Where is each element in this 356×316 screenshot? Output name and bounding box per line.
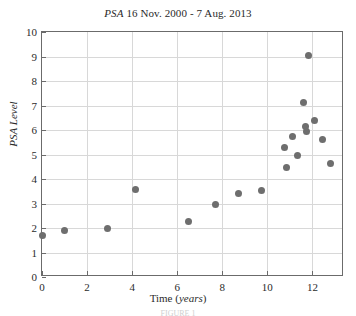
- y-axis-tick: [42, 81, 46, 82]
- data-point: [300, 99, 307, 106]
- gridline-vertical: [312, 32, 313, 275]
- y-axis-tick: [42, 57, 46, 58]
- x-axis-tick: [132, 271, 133, 275]
- psa-scatter-figure: PSA 16 Nov. 2000 - 7 Aug. 2013 012345678…: [0, 0, 356, 316]
- x-axis-tick: [42, 271, 43, 275]
- data-point: [212, 201, 219, 208]
- y-axis-tick: [42, 253, 46, 254]
- x-axis-label-close: ): [203, 292, 207, 304]
- y-axis-label: PSA Level: [7, 79, 19, 169]
- x-axis-tick: [222, 271, 223, 275]
- y-axis-tick: [42, 179, 46, 180]
- y-axis-tick: [42, 277, 46, 278]
- y-axis-tick: [42, 204, 46, 205]
- y-axis-tick-label: 2: [11, 223, 37, 234]
- y-axis-tick: [42, 130, 46, 131]
- data-point: [289, 133, 296, 140]
- data-point: [61, 227, 68, 234]
- data-point: [132, 186, 139, 193]
- data-point: [235, 190, 242, 197]
- figure-caption-cropped: FIGURE 1: [0, 309, 356, 316]
- chart-title: PSA 16 Nov. 2000 - 7 Aug. 2013: [0, 7, 356, 19]
- plot-area: 012345678910024681012: [41, 31, 343, 276]
- data-point: [327, 160, 334, 167]
- gridline-vertical: [222, 32, 223, 275]
- gridline-vertical: [177, 32, 178, 275]
- y-axis-tick-label: 4: [11, 174, 37, 185]
- y-axis-tick-label: 10: [11, 27, 37, 38]
- data-point: [303, 128, 310, 135]
- y-axis-tick: [42, 155, 46, 156]
- data-point: [305, 52, 312, 59]
- chart-title-rest: 16 Nov. 2000 - 7 Aug. 2013: [124, 7, 252, 19]
- data-point: [283, 164, 290, 171]
- x-axis-label-italic: years: [179, 292, 203, 304]
- gridline-vertical: [267, 32, 268, 275]
- gridline-vertical: [132, 32, 133, 275]
- x-axis-label: Time (years): [0, 292, 356, 304]
- x-axis-label-plain: Time (: [150, 292, 179, 304]
- data-point: [185, 218, 192, 225]
- data-point: [294, 152, 301, 159]
- data-point: [311, 117, 318, 124]
- gridline-vertical: [87, 32, 88, 275]
- data-point: [258, 187, 265, 194]
- x-axis-tick: [177, 271, 178, 275]
- data-point: [281, 144, 288, 151]
- y-axis-tick: [42, 228, 46, 229]
- data-point: [39, 232, 46, 239]
- data-point: [319, 136, 326, 143]
- y-axis-tick-label: 1: [11, 248, 37, 259]
- y-axis-tick-label: 3: [11, 199, 37, 210]
- y-axis-tick: [42, 106, 46, 107]
- data-point: [104, 225, 111, 232]
- y-axis-tick-label: 9: [11, 52, 37, 63]
- chart-title-italic-part: PSA: [104, 7, 123, 19]
- x-axis-tick: [87, 271, 88, 275]
- x-axis-tick: [312, 271, 313, 275]
- y-axis-tick: [42, 32, 46, 33]
- x-axis-tick: [267, 271, 268, 275]
